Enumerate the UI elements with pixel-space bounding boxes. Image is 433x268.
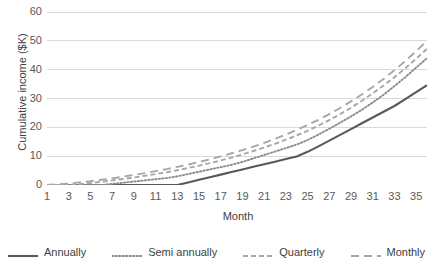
legend-item-quarterly[interactable]: Quarterly	[243, 246, 324, 258]
x-tick-label: 3	[58, 190, 80, 203]
x-tick-label: 31	[362, 190, 384, 203]
y-tick-label: 20	[8, 121, 42, 132]
x-tick-label: 27	[318, 190, 340, 203]
y-tick-label: 10	[8, 150, 42, 161]
x-tick-label: 11	[145, 190, 167, 203]
x-tick-label: 19	[231, 190, 253, 203]
y-tick-label: 40	[8, 64, 42, 75]
legend-item-semi-annually[interactable]: Semi annually	[112, 246, 217, 258]
x-tick-label: 1	[36, 190, 58, 203]
legend-swatch-icon	[112, 247, 142, 257]
x-tick-label: 17	[210, 190, 232, 203]
y-tick-label: 30	[8, 93, 42, 104]
legend-swatch-icon	[243, 247, 273, 257]
legend-label: Annually	[44, 246, 86, 258]
x-tick-label: 9	[123, 190, 145, 203]
series-line-semi-annually	[47, 58, 427, 185]
legend-label: Monthly	[387, 246, 426, 258]
chart-legend: AnnuallySemi annuallyQuarterlyMonthly	[0, 240, 433, 264]
x-axis-tick-labels: 1357911131517192123252729313335	[47, 190, 427, 206]
x-tick-label: 33	[383, 190, 405, 203]
y-axis-tick-labels: 0102030405060	[0, 0, 42, 268]
x-tick-label: 13	[166, 190, 188, 203]
legend-item-monthly[interactable]: Monthly	[351, 246, 426, 258]
x-tick-label: 29	[340, 190, 362, 203]
legend-swatch-icon	[8, 247, 38, 257]
x-tick-label: 5	[79, 190, 101, 203]
legend-item-annually[interactable]: Annually	[8, 246, 86, 258]
x-tick-label: 23	[275, 190, 297, 203]
y-tick-label: 0	[8, 179, 42, 190]
legend-label: Quarterly	[279, 246, 324, 258]
line-chart: Cumulative income ($K) 0102030405060 135…	[0, 0, 433, 268]
series-line-annually	[47, 85, 427, 185]
y-tick-label: 60	[8, 6, 42, 17]
x-tick-label: 15	[188, 190, 210, 203]
x-tick-label: 35	[405, 190, 427, 203]
legend-label: Semi annually	[148, 246, 217, 258]
x-tick-label: 21	[253, 190, 275, 203]
x-tick-label: 7	[101, 190, 123, 203]
x-tick-label: 25	[297, 190, 319, 203]
plot-svg	[47, 12, 427, 185]
plot-area	[47, 12, 427, 185]
x-axis-title: Month	[47, 210, 429, 222]
y-tick-label: 50	[8, 35, 42, 46]
legend-swatch-icon	[351, 247, 381, 257]
